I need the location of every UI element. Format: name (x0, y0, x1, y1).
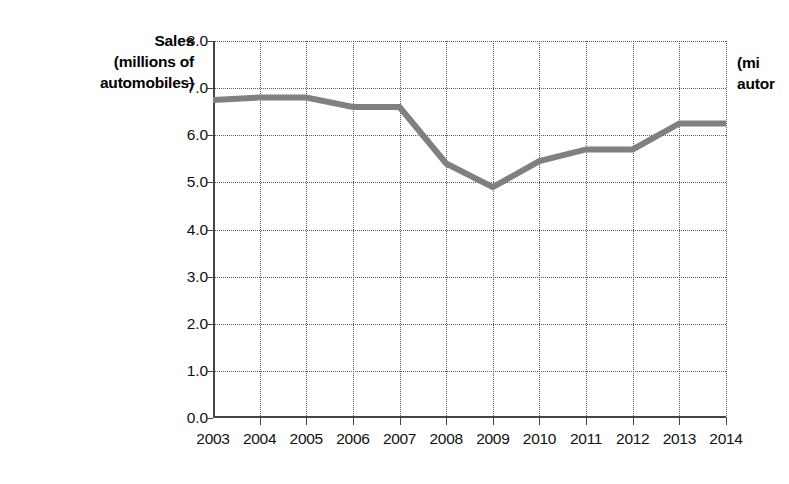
x-axis-tick-labels: 2003200420052006200720082009201020112012… (0, 430, 789, 454)
x-axis-tick-label: 2006 (336, 430, 369, 448)
y-axis-tick-label: 8.0 (156, 32, 208, 50)
y-axis-tick-label: 6.0 (156, 126, 208, 144)
y-axis-tick-label: 1.0 (156, 362, 208, 380)
y-axis-tick-label: 4.0 (156, 221, 208, 239)
data-series-sales (213, 41, 726, 418)
x-axis-tick-label: 2009 (476, 430, 509, 448)
x-axis-tick-label: 2013 (663, 430, 696, 448)
y-axis-tickmark (206, 88, 213, 89)
y-axis-tick-label: 5.0 (156, 173, 208, 191)
x-axis-tick-label: 2012 (616, 430, 649, 448)
y-axis-tick-label: 3.0 (156, 268, 208, 286)
y-axis-tickmark (206, 277, 213, 278)
adjacent-chart-axis-title-line-1: (mi (737, 52, 789, 73)
x-axis-tickmark (539, 418, 540, 425)
x-axis-tickmark (493, 418, 494, 425)
x-axis-tick-label: 2010 (523, 430, 556, 448)
x-axis-tickmark (260, 418, 261, 425)
y-axis-tick-label: 7.0 (156, 79, 208, 97)
y-axis-tickmark (206, 182, 213, 183)
x-axis-tickmark (306, 418, 307, 425)
y-axis-tickmark (206, 230, 213, 231)
sales-line (213, 98, 726, 188)
line-chart-figure: Sales (millions of automobiles) 0.01.02.… (0, 0, 789, 484)
x-axis-tickmark (679, 418, 680, 425)
x-axis-tick-label: 2014 (709, 430, 742, 448)
y-axis-tickmark (206, 135, 213, 136)
y-axis-tick-labels: 0.01.02.03.04.05.06.07.08.0 (156, 0, 208, 484)
x-axis-tick-label: 2003 (196, 430, 229, 448)
y-axis-tickmark (206, 324, 213, 325)
x-axis-tickmark (586, 418, 587, 425)
x-axis-tick-label: 2008 (430, 430, 463, 448)
y-axis-tickmark (206, 41, 213, 42)
x-axis-tickmark (400, 418, 401, 425)
plot-area (213, 41, 726, 418)
adjacent-chart-axis-title-line-2: autor (737, 73, 789, 94)
y-axis-tick-label: 0.0 (156, 409, 208, 427)
x-axis-tick-label: 2011 (570, 430, 602, 448)
y-axis-tick-label: 2.0 (156, 315, 208, 333)
x-axis-tick-label: 2004 (243, 430, 276, 448)
x-axis-tickmark (633, 418, 634, 425)
adjacent-chart-axis-title-partial: (mi autor (737, 52, 789, 94)
y-axis-tickmark (206, 418, 213, 419)
x-axis-tickmark (446, 418, 447, 425)
x-axis-tickmark (353, 418, 354, 425)
y-axis-tickmark (206, 371, 213, 372)
x-axis-tick-label: 2005 (290, 430, 323, 448)
x-axis-tickmark (726, 418, 727, 425)
gridline-vertical (726, 41, 727, 418)
x-axis-tick-label: 2007 (383, 430, 416, 448)
